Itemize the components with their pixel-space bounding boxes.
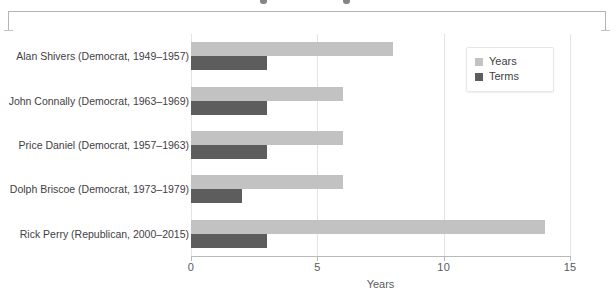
bar-terms[interactable] — [191, 56, 267, 70]
bracket-horizontal-line — [8, 11, 606, 12]
top-bracket-annotation — [8, 11, 606, 31]
category-axis-labels: Alan Shivers (Democrat, 1949–1957)John C… — [0, 34, 189, 256]
x-axis-tick-label: 10 — [424, 261, 464, 273]
gridline — [570, 34, 571, 256]
x-axis-tick-label: 0 — [171, 261, 211, 273]
bracket-left-arm — [8, 11, 9, 30]
chart-legend[interactable]: YearsTerms — [466, 47, 554, 92]
category-label: Alan Shivers (Democrat, 1949–1957) — [3, 50, 189, 62]
legend-label: Years — [489, 56, 517, 67]
bar-terms[interactable] — [191, 234, 267, 248]
x-axis-tick-label: 5 — [297, 261, 337, 273]
bar-years[interactable] — [191, 220, 545, 234]
x-axis-tick-label: 15 — [550, 261, 590, 273]
legend-swatch-icon — [475, 58, 483, 66]
category-label: John Connally (Democrat, 1963–1969) — [3, 95, 189, 107]
bar-years[interactable] — [191, 175, 343, 189]
bracket-left-foot — [4, 30, 13, 31]
bar-years[interactable] — [191, 131, 343, 145]
bar-terms[interactable] — [191, 101, 267, 115]
category-label: Dolph Briscoe (Democrat, 1973–1979) — [3, 183, 189, 195]
legend-item-terms[interactable]: Terms — [475, 69, 544, 84]
bar-years[interactable] — [191, 87, 343, 101]
bracket-right-foot — [601, 30, 610, 31]
bar-years[interactable] — [191, 42, 393, 56]
chart-screenshot: Alan Shivers (Democrat, 1949–1957)John C… — [0, 0, 616, 299]
bar-terms[interactable] — [191, 145, 267, 159]
title-descender-artifact-1 — [260, 0, 267, 4]
title-descender-artifact-2 — [343, 0, 350, 4]
legend-swatch-icon — [475, 73, 483, 81]
bar-terms[interactable] — [191, 189, 242, 203]
legend-label: Terms — [489, 71, 519, 82]
category-label: Rick Perry (Republican, 2000–2015) — [3, 228, 189, 240]
bracket-right-arm — [605, 11, 606, 30]
x-axis-label: Years — [191, 278, 570, 290]
legend-item-years[interactable]: Years — [475, 54, 544, 69]
category-label: Price Daniel (Democrat, 1957–1963) — [3, 139, 189, 151]
x-axis-line — [191, 256, 570, 257]
